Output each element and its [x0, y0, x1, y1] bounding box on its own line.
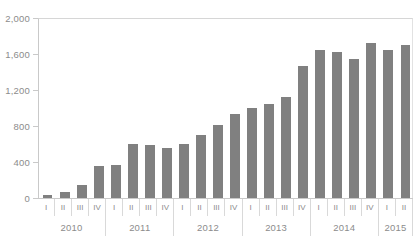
- quarter-tick-label: II: [328, 199, 345, 216]
- bar: [196, 135, 206, 198]
- bar: [77, 185, 87, 198]
- quarter-tick-label: III: [208, 199, 225, 216]
- year-group-label: 2014: [311, 216, 379, 236]
- quarter-tick-label: II: [55, 199, 72, 216]
- y-axis-tick-label: 0: [25, 193, 30, 204]
- bar-chart: 04008001,2001,6002,000 IIIIIIIVIIIIIIIVI…: [0, 0, 418, 252]
- year-group-label: 2013: [243, 216, 311, 236]
- bar: [401, 45, 411, 198]
- quarter-tick-label: IV: [294, 199, 311, 216]
- bar: [230, 114, 240, 198]
- bars-layer: [39, 19, 412, 198]
- quarter-tick-label: II: [260, 199, 277, 216]
- year-group-label: 2015: [379, 216, 413, 236]
- quarter-tick-label: I: [311, 199, 328, 216]
- quarter-tick-label: III: [72, 199, 89, 216]
- quarter-label-row: IIIIIIIVIIIIIIIVIIIIIIIVIIIIIIIVIIIIIIIV…: [38, 199, 413, 216]
- quarter-tick-label: I: [379, 199, 396, 216]
- bar: [315, 50, 325, 199]
- quarter-tick-label: IV: [89, 199, 106, 216]
- plot-area: [38, 18, 413, 198]
- year-group-label: 2011: [106, 216, 174, 236]
- quarter-tick-label: I: [38, 199, 55, 216]
- quarter-tick-label: IV: [157, 199, 174, 216]
- bar: [111, 165, 121, 198]
- bar: [366, 43, 376, 198]
- quarter-tick-label: I: [174, 199, 191, 216]
- y-axis-tick-label: 1,200: [5, 85, 30, 96]
- y-axis-tick-label: 800: [14, 121, 30, 132]
- bar: [94, 166, 104, 198]
- y-axis-tick-label: 1,600: [5, 49, 30, 60]
- x-axis: IIIIIIIVIIIIIIIVIIIIIIIVIIIIIIIVIIIIIIIV…: [38, 198, 413, 252]
- quarter-tick-label: III: [277, 199, 294, 216]
- quarter-tick-label: III: [140, 199, 157, 216]
- bar: [247, 108, 257, 198]
- year-label-row: 201020112012201320142015: [38, 216, 413, 236]
- quarter-tick-label: I: [106, 199, 123, 216]
- bar: [332, 52, 342, 198]
- bar: [213, 125, 223, 198]
- bar: [298, 66, 308, 198]
- year-group-label: 2012: [174, 216, 242, 236]
- quarter-tick-label: II: [191, 199, 208, 216]
- bar: [145, 145, 155, 198]
- bar: [349, 59, 359, 198]
- bar: [162, 148, 172, 198]
- y-axis-tick-label: 2,000: [5, 13, 30, 24]
- bar: [281, 97, 291, 198]
- bar: [264, 104, 274, 199]
- bar: [128, 144, 138, 198]
- y-axis-tick-label: 400: [14, 157, 30, 168]
- bar: [179, 144, 189, 198]
- quarter-tick-label: IV: [362, 199, 379, 216]
- y-axis: 04008001,2001,6002,000: [0, 0, 38, 252]
- quarter-tick-label: III: [345, 199, 362, 216]
- quarter-tick-label: II: [123, 199, 140, 216]
- quarter-tick-label: I: [243, 199, 260, 216]
- year-group-label: 2010: [38, 216, 106, 236]
- quarter-tick-label: II: [396, 199, 413, 216]
- quarter-tick-label: IV: [226, 199, 243, 216]
- bar: [383, 50, 393, 199]
